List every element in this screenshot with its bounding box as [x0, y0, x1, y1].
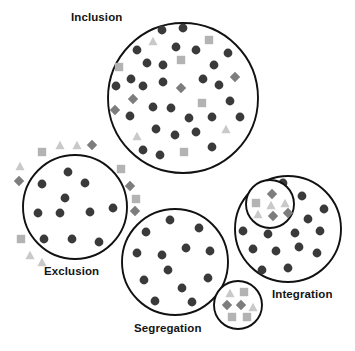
marker-inclusion	[126, 112, 135, 121]
marker-segregation	[140, 276, 149, 285]
marker-inclusion	[143, 59, 152, 68]
marker-segregation	[188, 298, 197, 307]
marker-segregation	[142, 228, 151, 237]
outside-marker-exclusion	[72, 141, 81, 150]
marker-integration	[298, 192, 307, 201]
marker-integration	[249, 245, 258, 254]
marker-inclusion	[139, 146, 148, 155]
marker-inclusion	[179, 24, 188, 33]
marker-inclusion	[210, 61, 219, 70]
marker-segregation	[178, 284, 187, 293]
marker-exclusion	[86, 208, 95, 217]
marker-inclusion	[172, 43, 181, 52]
label-integration: Integration	[272, 288, 333, 300]
label-inclusion: Inclusion	[71, 11, 122, 23]
marker-segregation	[182, 244, 191, 253]
marker-inclusion	[158, 26, 167, 35]
marker-inclusion	[156, 151, 165, 160]
marker-inclusion	[127, 75, 136, 84]
boundary-circle-segregation	[122, 209, 228, 315]
marker-inclusion	[171, 131, 180, 140]
marker-inclusion	[177, 56, 185, 64]
marker-integration	[304, 215, 313, 224]
diagram-root: Inclusion Exclusion Segregation Integrat…	[0, 0, 355, 351]
marker-inclusion	[149, 103, 158, 112]
marker-exclusion	[40, 235, 49, 244]
inner-marker-integration	[252, 199, 260, 207]
group-integration	[235, 176, 341, 282]
marker-inclusion	[192, 128, 201, 137]
marker-inclusion	[198, 99, 206, 107]
marker-segregation	[158, 251, 167, 260]
outside-marker-exclusion	[17, 235, 25, 243]
marker-inclusion	[159, 61, 168, 70]
outside-marker-exclusion	[87, 140, 97, 150]
marker-exclusion	[68, 235, 77, 244]
outside-marker-exclusion	[130, 206, 140, 216]
marker-exclusion	[56, 209, 65, 218]
outside-marker-exclusion	[25, 251, 34, 260]
marker-integration	[291, 229, 300, 238]
marker-inclusion	[208, 113, 217, 122]
marker-integration	[313, 249, 322, 258]
marker-inclusion	[112, 82, 121, 91]
marker-inclusion	[224, 49, 233, 58]
marker-integration	[316, 227, 325, 236]
marker-inclusion	[205, 36, 213, 44]
marker-inclusion	[226, 97, 235, 106]
marker-integration	[320, 205, 329, 214]
marker-integration	[295, 243, 304, 252]
marker-segregation	[151, 297, 160, 306]
satellite-marker-segregation	[240, 288, 248, 296]
outside-marker-exclusion	[125, 181, 135, 191]
marker-inclusion	[208, 143, 217, 152]
marker-inclusion	[192, 46, 201, 55]
outside-marker-exclusion	[132, 195, 140, 203]
marker-segregation	[133, 249, 142, 258]
marker-exclusion	[61, 194, 70, 203]
marker-inclusion	[139, 82, 148, 91]
marker-integration	[239, 227, 248, 236]
marker-integration	[258, 266, 267, 275]
marker-exclusion	[64, 168, 73, 177]
marker-segregation	[164, 266, 173, 275]
outside-marker-exclusion	[14, 176, 24, 186]
marker-integration	[264, 230, 273, 239]
marker-inclusion	[215, 81, 224, 90]
marker-segregation	[206, 247, 215, 256]
label-segregation: Segregation	[134, 322, 202, 334]
marker-exclusion	[95, 238, 104, 247]
marker-integration	[284, 264, 293, 273]
marker-inclusion	[152, 125, 161, 134]
marker-exclusion	[34, 209, 43, 218]
outside-marker-exclusion	[15, 162, 24, 171]
marker-exclusion	[81, 179, 90, 188]
group-inclusion	[108, 23, 258, 173]
marker-inclusion	[236, 113, 245, 122]
marker-inclusion	[199, 75, 208, 84]
label-exclusion: Exclusion	[44, 265, 99, 277]
outside-marker-exclusion	[117, 165, 125, 173]
marker-segregation	[204, 274, 213, 283]
satellite-marker-segregation	[243, 313, 251, 321]
marker-integration	[272, 247, 281, 256]
marker-inclusion	[185, 114, 194, 123]
outside-marker-exclusion	[55, 141, 64, 150]
marker-inclusion	[159, 78, 168, 87]
marker-inclusion	[180, 148, 188, 156]
outside-marker-exclusion	[38, 148, 46, 156]
marker-exclusion	[109, 204, 118, 213]
group-exclusion	[14, 140, 140, 266]
marker-inclusion	[115, 63, 123, 71]
marker-segregation	[195, 224, 204, 233]
marker-segregation	[166, 216, 175, 225]
marker-inclusion	[133, 46, 142, 55]
marker-exclusion	[38, 180, 47, 189]
satellite-marker-segregation	[228, 313, 236, 321]
marker-inclusion	[167, 104, 176, 113]
